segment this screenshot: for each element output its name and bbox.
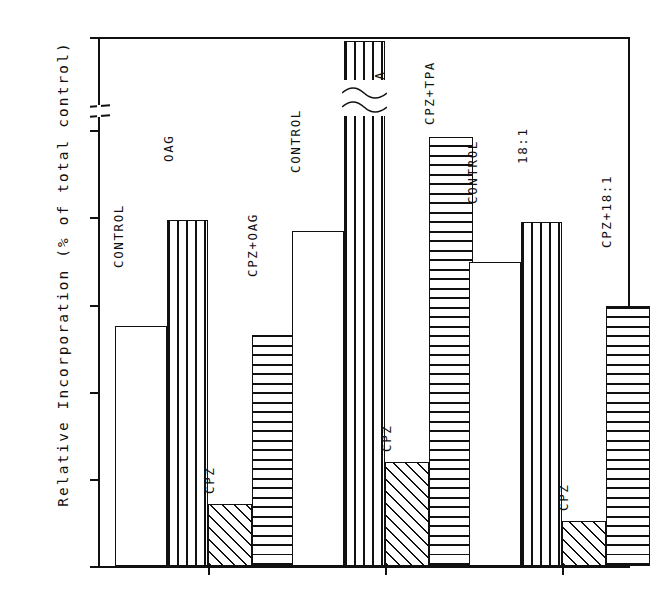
bar-tpa-lower-segment[interactable] [344,110,385,566]
x-axis-line [98,566,630,568]
bar-label-control-tpa: CONTROL [288,109,303,173]
bar-control-oag[interactable] [115,326,167,566]
plot-frame-top [98,37,630,39]
y-axis-title: Relative Incorporation (% of total contr… [55,39,71,509]
bar-label-control-181: CONTROL [465,140,480,204]
axis-break-gap [97,105,101,117]
bar-label-cpz-plus-181: CPZ+18:1 [599,175,614,248]
bar-cpz-plus-181[interactable] [606,306,650,566]
y-tick-150 [90,37,99,39]
bar-label-oag: OAG [161,135,176,162]
figure-canvas: Relative Incorporation (% of total contr… [0,0,663,600]
y-tick-7 [90,479,99,481]
bar-label-cpz-181: CPZ [556,484,571,511]
y-tick-28 [90,217,99,219]
y-tick-35 [90,130,99,132]
bar-control-tpa[interactable] [292,231,344,566]
y-tick-21 [90,305,99,307]
bar-label-cpz-tpa: CPZ [379,425,394,452]
bar-label-cpz-plus-tpa: CPZ+TPA [422,61,437,125]
y-tick-0 [90,566,99,568]
x-group-separator-3 [562,566,564,575]
x-group-separator-2 [385,566,387,575]
bar-tpa-break-symbol [342,80,387,116]
plot-area: 0 7 14 21 28 35 150 CONTROL OAG CPZ CPZ+… [98,37,630,568]
bar-label-cpz-oag: CPZ [202,467,217,494]
bar-cpz-181[interactable] [562,521,606,566]
bar-control-181[interactable] [469,262,521,566]
bar-label-181: 18:1 [515,127,530,164]
bar-oag[interactable] [167,220,208,566]
y-tick-14 [90,392,99,394]
bar-181[interactable] [521,222,562,566]
bar-cpz-plus-oag[interactable] [252,335,296,566]
bar-label-control-oag: CONTROL [111,204,126,268]
x-group-separator-1 [208,566,210,575]
bar-cpz-oag[interactable] [208,504,252,566]
bar-label-cpz-plus-oag: CPZ+OAG [245,213,260,277]
bar-cpz-tpa[interactable] [385,462,429,566]
